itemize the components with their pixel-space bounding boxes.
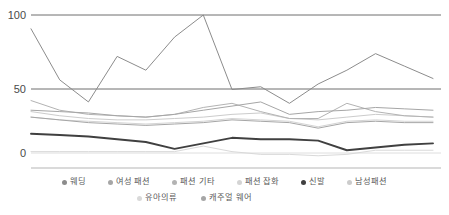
- legend-label: 신발: [309, 177, 325, 187]
- legend-item-여성 패션[interactable]: 여성 패션: [108, 177, 150, 187]
- legend-item-남성패션[interactable]: 남성패션: [347, 177, 387, 187]
- series-line-신발: [31, 134, 433, 151]
- plot-area: [0, 0, 449, 175]
- legend-label: 유아의류: [145, 193, 177, 203]
- legend-label: 여성 패션: [116, 177, 150, 187]
- line-chart: 100 50 0 웨딩여성 패션패션 기타패션 잡화신발남성패션 유아의류캐주얼…: [0, 0, 449, 215]
- legend-item-패션 잡화[interactable]: 패션 잡화: [237, 177, 279, 187]
- legend-swatch-icon: [301, 180, 306, 185]
- legend-row-1: 웨딩여성 패션패션 기타패션 잡화신발남성패션: [0, 174, 449, 190]
- legend-item-웨딩[interactable]: 웨딩: [62, 177, 86, 187]
- gridlines: [31, 15, 441, 168]
- legend-swatch-icon: [347, 180, 352, 185]
- data-series-group: [31, 15, 433, 156]
- legend-label: 캐주얼 웨어: [209, 193, 251, 203]
- legend: 웨딩여성 패션패션 기타패션 잡화신발남성패션 유아의류캐주얼 웨어: [0, 174, 449, 206]
- legend-swatch-icon: [62, 180, 67, 185]
- legend-label: 패션 기타: [180, 177, 214, 187]
- legend-item-신발[interactable]: 신발: [301, 177, 325, 187]
- legend-row-2: 유아의류캐주얼 웨어: [0, 190, 449, 206]
- legend-swatch-icon: [137, 196, 142, 201]
- series-line-웨딩: [31, 15, 433, 103]
- legend-swatch-icon: [201, 196, 206, 201]
- legend-label: 남성패션: [355, 177, 387, 187]
- legend-swatch-icon: [237, 180, 242, 185]
- series-line-패션 기타: [31, 101, 433, 119]
- legend-swatch-icon: [108, 180, 113, 185]
- legend-item-유아의류[interactable]: 유아의류: [137, 193, 177, 203]
- legend-item-캐주얼 웨어[interactable]: 캐주얼 웨어: [201, 193, 251, 203]
- legend-item-패션 기타[interactable]: 패션 기타: [172, 177, 214, 187]
- legend-label: 웨딩: [70, 177, 86, 187]
- legend-swatch-icon: [172, 180, 177, 185]
- legend-label: 패션 잡화: [245, 177, 279, 187]
